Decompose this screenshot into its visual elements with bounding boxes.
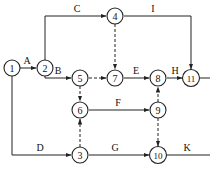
edge-i <box>124 16 191 69</box>
node-11: 11 <box>183 70 200 87</box>
svg-text:3: 3 <box>78 150 83 161</box>
svg-text:5: 5 <box>78 73 83 84</box>
svg-text:4: 4 <box>113 11 118 22</box>
label-k: K <box>183 142 191 153</box>
node-10: 10 <box>150 147 167 164</box>
svg-text:6: 6 <box>78 105 83 116</box>
node-3: 3 <box>72 147 88 163</box>
svg-text:11: 11 <box>187 74 196 84</box>
node-8: 8 <box>150 70 166 86</box>
node-5: 5 <box>72 70 88 86</box>
node-7: 7 <box>107 70 123 86</box>
label-c: C <box>74 3 81 14</box>
svg-text:2: 2 <box>43 63 48 74</box>
svg-text:8: 8 <box>156 73 161 84</box>
node-6: 6 <box>72 102 88 118</box>
svg-text:1: 1 <box>10 63 15 74</box>
label-g: G <box>111 142 118 153</box>
label-b: B <box>55 65 62 76</box>
svg-text:7: 7 <box>113 73 118 84</box>
node-2: 2 <box>37 60 53 76</box>
label-f: F <box>115 97 121 108</box>
network-diagram: A C B I E H F D G K 1 2 3 4 5 6 7 8 9 10… <box>0 0 218 171</box>
node-1: 1 <box>4 60 20 76</box>
label-a: A <box>23 55 31 66</box>
node-4: 4 <box>107 8 123 24</box>
edge-b <box>45 76 71 78</box>
node-9: 9 <box>150 102 166 118</box>
svg-text:10: 10 <box>154 151 164 161</box>
svg-text:9: 9 <box>156 105 161 116</box>
label-e: E <box>133 65 139 76</box>
label-h: H <box>171 65 178 76</box>
label-i: I <box>151 3 154 14</box>
label-d: D <box>36 142 43 153</box>
edge-c <box>45 16 106 60</box>
